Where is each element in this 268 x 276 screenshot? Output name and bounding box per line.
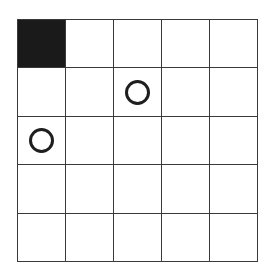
board-cell-r0-c0[interactable] bbox=[18, 20, 66, 68]
board-cell-r2-c1[interactable] bbox=[66, 117, 114, 165]
circle-piece-icon bbox=[29, 128, 54, 153]
board-cell-r0-c3[interactable] bbox=[162, 20, 210, 68]
board-cell-r4-c2[interactable] bbox=[114, 214, 162, 262]
board-cell-r1-c0[interactable] bbox=[18, 68, 66, 116]
board-cell-r2-c2[interactable] bbox=[114, 117, 162, 165]
board-cell-r2-c4[interactable] bbox=[210, 117, 258, 165]
board-cell-r3-c0[interactable] bbox=[18, 165, 66, 213]
board-cell-r4-c1[interactable] bbox=[66, 214, 114, 262]
board-cell-r4-c0[interactable] bbox=[18, 214, 66, 262]
board-cell-r0-c4[interactable] bbox=[210, 20, 258, 68]
board-cell-r1-c3[interactable] bbox=[162, 68, 210, 116]
game-board bbox=[17, 19, 258, 262]
board-cell-r3-c3[interactable] bbox=[162, 165, 210, 213]
board-cell-r4-c3[interactable] bbox=[162, 214, 210, 262]
board-cell-r2-c3[interactable] bbox=[162, 117, 210, 165]
board-cell-r3-c2[interactable] bbox=[114, 165, 162, 213]
board-cell-r3-c4[interactable] bbox=[210, 165, 258, 213]
board-cell-r2-c0[interactable] bbox=[18, 117, 66, 165]
board-cell-r1-c2[interactable] bbox=[114, 68, 162, 116]
board-cell-r0-c2[interactable] bbox=[114, 20, 162, 68]
board-cell-r1-c4[interactable] bbox=[210, 68, 258, 116]
board-cell-r4-c4[interactable] bbox=[210, 214, 258, 262]
circle-piece-icon bbox=[125, 80, 150, 105]
board-cell-r3-c1[interactable] bbox=[66, 165, 114, 213]
board-cell-r0-c1[interactable] bbox=[66, 20, 114, 68]
board-cell-r1-c1[interactable] bbox=[66, 68, 114, 116]
